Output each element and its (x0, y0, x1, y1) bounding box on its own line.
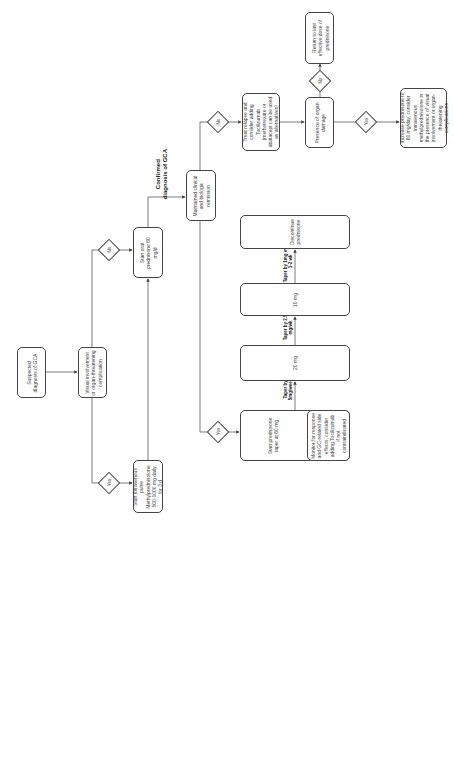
node-text: Increase prednisone to 60 mg/day, consid… (399, 90, 449, 146)
node-organ-damage: Presence of organ damage (305, 97, 334, 148)
decision-label-yes: Yes (107, 476, 112, 490)
decision-label-no: No (107, 243, 112, 257)
node-text: Return to last effective dose of prednis… (310, 14, 329, 62)
node-text: Visual involvement or organ-threatening … (83, 350, 102, 396)
decision-label-no: No (216, 115, 221, 129)
node-increase-prednisone: Increase prednisone to 60 mg/day, consid… (400, 88, 447, 148)
node-iv-pulse: Start intravenous pulse Methylprednisolo… (133, 460, 163, 513)
node-treat-relapse: Treat relapse and consider adding Tocili… (242, 93, 280, 151)
decision-label-yes: Yes (216, 425, 221, 439)
node-maintained-remission: Maintained clinical and biologic remissi… (186, 170, 216, 221)
node-text: Maintained clinical and biologic remissi… (192, 173, 211, 219)
node-text: Suspected diagnosis of GCA (25, 350, 38, 396)
node-oral-prednisone: Start oral prednisone 60 mg/d (133, 227, 163, 278)
node-suspected-diagnosis: Suspected diagnosis of GCA (17, 347, 46, 398)
decision-label-yes: Yes (364, 115, 369, 129)
node-text: Start intravenous pulse Methylprednisolo… (132, 463, 163, 511)
node-discontinue: Discontinue prednisone (240, 215, 350, 249)
node-text: 20 mg (292, 348, 298, 378)
connector-lines (0, 0, 454, 763)
node-text: Presence of organ damage (313, 99, 326, 147)
edge-label-confirmed: Confirmed diagnosis of GCA (155, 146, 169, 202)
node-text: 10 mg (292, 285, 298, 315)
node-monitor: Monitor for response and GC-related side… (307, 410, 350, 461)
node-text: Start oral prednisone 60 mg/d (139, 231, 158, 275)
node-dose-20: 20 mg (240, 345, 350, 381)
node-visual-involvement: Visual involvement or organ-threatening … (78, 347, 107, 398)
node-return-dose: Return to last effective dose of prednis… (305, 12, 334, 64)
node-text: Monitor for response and GC-related side… (310, 413, 348, 459)
node-text: Discontinue prednisone (289, 216, 302, 248)
node-text: Treat relapse and consider adding Tocili… (242, 95, 280, 149)
node-dose-10: 10 mg (240, 283, 350, 316)
decision-label-no: No (318, 74, 323, 88)
node-text: Start prednisone taper at 60 mg (267, 414, 280, 458)
